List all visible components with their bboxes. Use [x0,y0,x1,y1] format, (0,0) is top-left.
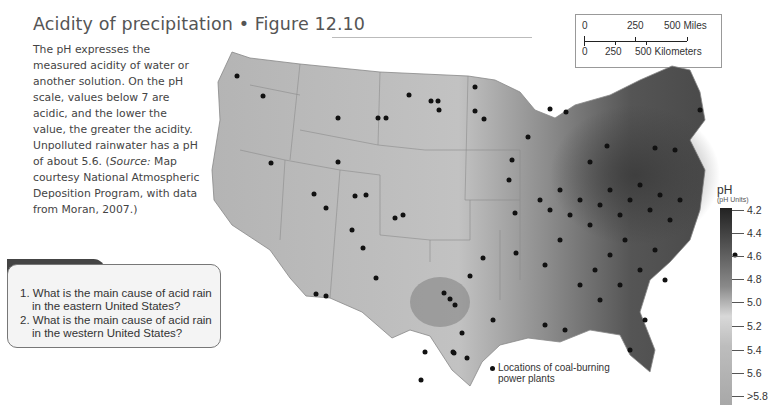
ramp-value: 5.0 [747,296,762,308]
ramp-value: >5.8 [747,390,768,402]
ramp-tick [732,256,744,257]
power-plant-label: Locations of coal-burning [498,362,610,373]
question-list: 1. What is the main cause of acid rain i… [20,287,220,341]
ph-color-ramp [720,208,732,405]
ramp-value: 4.2 [747,204,762,216]
question-item: 2. What is the main cause of acid rain i… [20,314,220,340]
question-item: 1. What is the main cause of acid rain i… [20,287,220,313]
power-plant-legend: Locations of coal-burning power plants [498,362,610,384]
ramp-value: 5.2 [747,320,762,332]
us-precipitation-ph-map [0,0,781,413]
ramp-value: 4.6 [747,250,762,262]
ramp-tick [732,302,744,303]
ramp-tick [732,233,744,234]
ramp-tick [732,326,744,327]
ramp-tick [732,396,744,397]
ramp-value: 4.4 [747,227,762,239]
ramp-value: 4.8 [747,273,762,285]
ramp-tick [732,373,744,374]
dot-icon [490,366,495,371]
ramp-value: 5.6 [747,367,762,379]
ramp-tick [732,279,744,280]
legend-title: pH [717,183,732,197]
ramp-tick [732,210,744,211]
ramp-value: 5.4 [747,344,762,356]
ramp-tick [732,350,744,351]
ask-yourself-box: 1. What is the main cause of acid rain i… [7,264,221,348]
power-plant-label: power plants [498,373,610,384]
legend-units: (pH Units) [717,196,749,203]
